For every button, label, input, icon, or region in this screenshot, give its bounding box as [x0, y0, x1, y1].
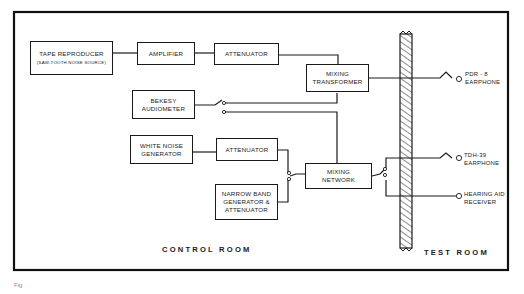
narrow-band-line2: GENERATOR &: [223, 198, 270, 206]
white-noise-generator-block: WHITE NOISE GENERATOR: [130, 135, 193, 164]
mixing-network-line2: NETWORK: [322, 176, 355, 184]
amplifier-title: AMPLIFIER: [149, 50, 183, 58]
mixing-network-line1: MIXING: [327, 168, 350, 176]
attenuator-mid-block: ATTENUATOR: [216, 138, 278, 161]
tape-reproducer-block: TAPE REPRODUCER (SAW-TOOTH NOISE SOURCE): [30, 41, 113, 75]
white-noise-generator-line1: WHITE NOISE: [140, 142, 183, 150]
pdr8-line1: PDR - 8: [465, 71, 500, 79]
control-room-label: CONTROL ROOM: [162, 245, 252, 254]
white-noise-generator-line2: GENERATOR: [141, 150, 181, 158]
attenuator-top-title: ATTENUATOR: [225, 50, 268, 58]
narrow-band-generator-block: NARROW BAND GENERATOR & ATTENUATOR: [215, 184, 278, 220]
attenuator-mid-title: ATTENUATOR: [226, 146, 269, 154]
pdr8-earphone-label: PDR - 8 EARPHONE: [465, 71, 500, 86]
narrow-band-line3: ATTENUATOR: [225, 206, 268, 214]
wall: [400, 34, 412, 248]
mixing-network-block: MIXING NETWORK: [305, 163, 372, 189]
pdr8-line2: EARPHONE: [465, 79, 500, 87]
tdh39-earphone-label: TDH-39 EARPHONE: [464, 152, 499, 167]
hearing-aid-line1: HEARING AID: [464, 191, 505, 199]
mixing-transformer-line2: TRANSFORMER: [313, 78, 363, 86]
figure-caption: Fig: [14, 282, 22, 288]
amplifier-block: AMPLIFIER: [137, 42, 195, 65]
tdh39-line1: TDH-39: [464, 152, 499, 160]
bekesy-audiometer-block: BEKESY AUDIOMETER: [132, 90, 195, 119]
bekesy-audiometer-line1: BEKESY: [151, 97, 177, 105]
attenuator-top-block: ATTENUATOR: [214, 43, 279, 65]
tape-reproducer-subtitle: (SAW-TOOTH NOISE SOURCE): [37, 60, 106, 66]
hearing-aid-receiver-label: HEARING AID RECEIVER: [464, 191, 505, 206]
mixing-transformer-line1: MIXING: [326, 70, 349, 78]
test-room-label: TEST ROOM: [424, 248, 489, 257]
mixing-transformer-block: MIXING TRANSFORMER: [306, 64, 369, 92]
hearing-aid-line2: RECEIVER: [464, 199, 505, 207]
tdh39-line2: EARPHONE: [464, 160, 499, 168]
bekesy-audiometer-line2: AUDIOMETER: [142, 105, 185, 113]
narrow-band-line1: NARROW BAND: [222, 190, 271, 198]
tape-reproducer-title: TAPE REPRODUCER: [39, 50, 103, 58]
